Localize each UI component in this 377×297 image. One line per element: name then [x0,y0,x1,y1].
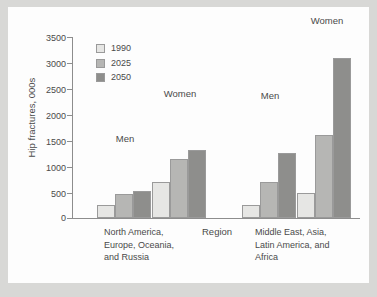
y-tick-label-1000: 1000 [20,164,66,173]
y-tick-label-2500: 2500 [20,86,66,95]
x-category-right-line-1: Middle East, Asia, [255,226,370,239]
y-tick-2000 [67,115,73,116]
y-tick-0 [67,218,73,219]
x-category-left-line-1: North America, [104,226,214,239]
bar-group-men-region-b: Men [242,37,298,218]
bar-1990-women-b[interactable] [297,193,315,218]
figure-root: Hip fractures, 000s 3500 3000 2500 2000 … [0,0,377,297]
x-axis-line [72,218,360,219]
bar-group-men-region-a: Men [97,37,153,218]
plot-area: Hip fractures, 000s 3500 3000 2500 2000 … [8,7,369,283]
bar-2050-women-b[interactable] [333,58,351,218]
y-tick-label-1500: 1500 [20,138,66,147]
bar-2050-men-a[interactable] [133,191,151,218]
y-tick-3000 [67,63,73,64]
x-category-left-line-2: Europe, Oceania, [104,239,214,252]
chart-panel: Hip fractures, 000s 3500 3000 2500 2000 … [8,7,369,283]
bar-2025-men-b[interactable] [260,182,278,218]
bar-1990-men-a[interactable] [97,205,115,218]
bar-group-women-region-a: Women [152,37,208,218]
y-tick-label-2000: 2000 [20,112,66,121]
bar-2050-men-b[interactable] [278,153,296,218]
y-axis-line [72,37,73,219]
x-category-right-line-2: Latin America, and [255,239,370,252]
y-tick-1500 [67,141,73,142]
group-label-women-b: Women [287,15,367,26]
bar-1990-women-a[interactable] [152,182,170,218]
bar-2050-women-a[interactable] [188,150,206,218]
y-axis-tick-labels: 3500 3000 2500 2000 1500 1000 500 0 [14,7,66,283]
bar-2025-women-b[interactable] [315,135,333,218]
y-tick-label-0: 0 [20,214,66,223]
bar-1990-men-b[interactable] [242,205,260,218]
y-tick-500 [67,193,73,194]
bar-2025-women-a[interactable] [170,159,188,218]
y-tick-label-3500: 3500 [20,34,66,43]
y-tick-3500 [67,37,73,38]
group-label-women-a: Women [140,88,220,99]
y-tick-label-3000: 3000 [20,60,66,69]
bar-group-women-region-b: Women [297,37,353,218]
x-category-right-line-3: Africa [255,251,370,264]
y-tick-1000 [67,167,73,168]
y-tick-2500 [67,89,73,90]
x-category-label-right: Middle East, Asia, Latin America, and Af… [255,226,370,264]
x-category-label-left: North America, Europe, Oceania, and Russ… [104,226,214,264]
y-tick-label-500: 500 [20,190,66,199]
x-axis-title: Region [202,226,232,237]
x-category-left-line-3: and Russia [104,251,214,264]
bar-2025-men-a[interactable] [115,194,133,218]
